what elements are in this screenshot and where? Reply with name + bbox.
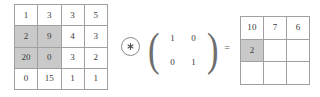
input-cell-1-2: 4: [62, 26, 85, 47]
output-cell-2-2: [287, 62, 310, 85]
input-cell-1-0: 2: [15, 26, 38, 47]
output-cell-1-1: [264, 40, 287, 63]
input-cell-3-2: 1: [62, 69, 85, 90]
kernel-values: 1 0 0 1: [162, 26, 204, 74]
equals-sign: =: [220, 40, 234, 54]
input-cell-3-1: 15: [38, 69, 61, 90]
output-cell-1-0: 2: [241, 40, 264, 63]
kernel-cell-0-0: 1: [162, 26, 183, 50]
output-matrix: 10 7 6 2: [240, 16, 310, 85]
kernel-cell-0-1: 0: [183, 26, 204, 50]
kernel-matrix: ( 1 0 0 1 ): [155, 22, 211, 78]
input-cell-0-0: 1: [15, 5, 38, 26]
input-cell-2-1: 0: [38, 48, 61, 69]
kernel-cell-1-0: 0: [162, 50, 183, 74]
input-cell-0-3: 5: [85, 5, 108, 26]
output-cell-0-1: 7: [264, 17, 287, 40]
circled-asterisk-icon: [120, 36, 141, 57]
input-matrix: 1 3 3 5 2 9 4 3 20 0 3 2 0 15 1 1: [14, 4, 108, 90]
input-cell-2-0: 20: [15, 48, 38, 69]
input-cell-1-1: 9: [38, 26, 61, 47]
output-cell-2-1: [264, 62, 287, 85]
input-cell-1-3: 3: [85, 26, 108, 47]
output-cell-0-2: 6: [287, 17, 310, 40]
convolution-diagram: 1 3 3 5 2 9 4 3 20 0 3 2 0 15 1 1 ( 1: [0, 0, 320, 97]
input-cell-2-3: 2: [85, 48, 108, 69]
output-cell-1-2: [287, 40, 310, 63]
input-cell-0-1: 3: [38, 5, 61, 26]
input-cell-2-2: 3: [62, 48, 85, 69]
input-cell-3-3: 1: [85, 69, 108, 90]
input-cell-3-0: 0: [15, 69, 38, 90]
kernel-cell-1-1: 1: [183, 50, 204, 74]
output-cell-2-0: [241, 62, 264, 85]
input-cell-0-2: 3: [62, 5, 85, 26]
output-cell-0-0: 10: [241, 17, 264, 40]
